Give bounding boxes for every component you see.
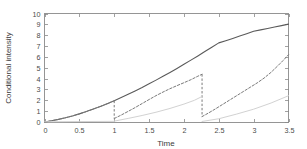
y-tick-label: 1 <box>37 107 41 116</box>
conditional-intensity-line-chart: 00.511.522.533.5 012345678910 Time Condi… <box>0 0 307 149</box>
x-tick-label: 2 <box>183 126 187 135</box>
x-axis-ticks <box>46 14 290 123</box>
x-axis-title: Time <box>157 139 175 148</box>
y-tick-label: 0 <box>37 118 41 127</box>
x-axis-tick-labels: 00.511.522.533.5 <box>44 126 295 135</box>
plot-frame <box>45 14 289 123</box>
series-segment-1 <box>114 97 202 122</box>
series-line <box>45 24 289 122</box>
x-tick-label: 0 <box>44 126 48 135</box>
y-axis-title: Conditional intensity <box>4 32 13 104</box>
x-tick-label: 3.5 <box>285 126 295 135</box>
x-tick-label: 1.5 <box>145 126 155 135</box>
series-segment-2 <box>202 96 288 122</box>
y-tick-label: 7 <box>37 42 41 51</box>
y-tick-label: 6 <box>37 53 41 62</box>
y-tick-label: 10 <box>33 10 41 19</box>
x-tick-label: 3 <box>253 126 257 135</box>
plot-border <box>45 14 289 123</box>
chart-figure: 00.511.522.533.5 012345678910 Time Condi… <box>0 0 307 149</box>
series-segment-2 <box>202 55 288 117</box>
series-dashed-resetting-curve <box>45 55 289 122</box>
x-tick-label: 2.5 <box>215 126 225 135</box>
y-axis-tick-labels: 012345678910 <box>33 10 41 127</box>
y-tick-label: 9 <box>37 20 41 29</box>
series-light-gray-baseline-curve <box>45 96 289 122</box>
y-tick-label: 8 <box>37 31 41 40</box>
y-axis-ticks <box>45 15 289 123</box>
y-tick-label: 3 <box>37 85 41 94</box>
series-solid-upper-curve <box>45 24 289 122</box>
y-tick-label: 4 <box>37 75 41 84</box>
y-tick-label: 5 <box>37 64 41 73</box>
data-series-group <box>45 24 289 122</box>
x-tick-label: 0.5 <box>75 126 85 135</box>
y-tick-label: 2 <box>37 96 41 105</box>
x-tick-label: 1 <box>113 126 117 135</box>
